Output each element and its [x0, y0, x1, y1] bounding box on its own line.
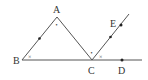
tick-mark-ab: [38, 37, 41, 40]
point-d: [121, 59, 124, 62]
label-a: A: [53, 4, 61, 15]
angle-mark-acb: •: [91, 50, 93, 56]
tick-mark-ce: [109, 36, 112, 39]
angle-mark-a: •: [56, 22, 58, 28]
label-c: C: [88, 65, 95, 76]
label-e: E: [110, 18, 116, 29]
angle-mark-ecd: ×: [99, 54, 102, 60]
geometry-diagram: × • • × A B C D E: [0, 0, 148, 80]
label-b: B: [13, 55, 20, 66]
angle-mark-b: ×: [28, 54, 31, 60]
label-d: D: [118, 65, 125, 76]
segment-ac: [57, 17, 92, 60]
point-e: [120, 24, 123, 27]
